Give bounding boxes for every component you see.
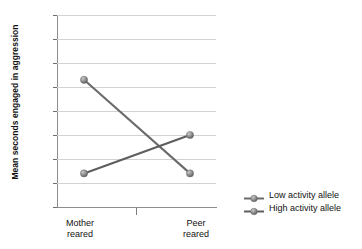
series-low-activity-line: [84, 80, 190, 174]
legend-item-low-activity-allele[interactable]: Low activity allele: [243, 189, 361, 202]
legend-label-high-activity-allele: High activity allele: [269, 203, 341, 214]
chart-legend: Low activity allele High activity allele: [243, 189, 361, 215]
legend-marker-low-activity-allele: [243, 190, 265, 201]
data-point-high-mother-reared: [80, 170, 87, 177]
x-tick-label-mother-reared-line1: Mother: [66, 218, 94, 228]
series-low-activity-allele: [80, 76, 193, 177]
data-point-low-mother-reared: [80, 76, 87, 83]
data-series-layer: [57, 15, 217, 208]
x-tick-label-peer-reared-line2: reared: [151, 229, 241, 240]
x-tick-label-peer-reared: Peer reared: [151, 218, 241, 240]
series-high-activity-allele: [80, 131, 193, 177]
x-tick-label-mother-reared: Mother reared: [35, 218, 125, 240]
data-point-high-peer-reared: [186, 131, 193, 138]
legend-label-low-activity-allele: Low activity allele: [269, 190, 339, 201]
aggression-interaction-chart: Mean seconds engaged in aggression 400 3…: [0, 0, 362, 249]
y-axis-title: Mean seconds engaged in aggression: [10, 4, 20, 200]
legend-marker-high-activity-allele: [243, 203, 265, 214]
data-point-low-peer-reared: [186, 170, 193, 177]
series-high-activity-line: [84, 135, 190, 173]
x-axis-center-tick: [136, 208, 137, 215]
legend-item-high-activity-allele[interactable]: High activity allele: [243, 202, 361, 215]
x-tick-label-peer-reared-line1: Peer: [186, 218, 205, 228]
x-tick-label-mother-reared-line2: reared: [35, 229, 125, 240]
